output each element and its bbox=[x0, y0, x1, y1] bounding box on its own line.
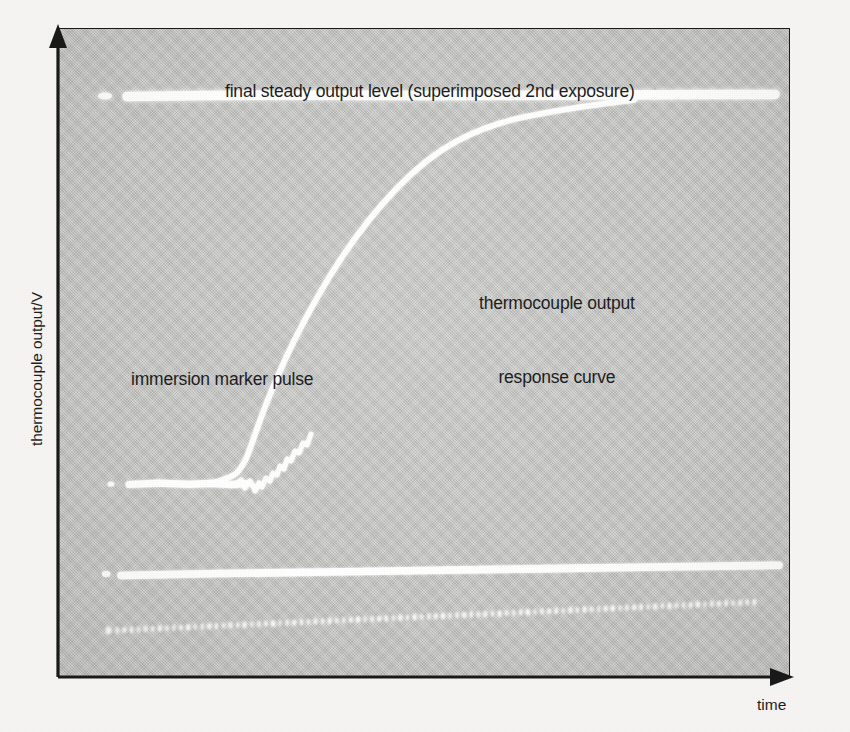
timing-pulse-dot bbox=[398, 614, 403, 621]
timing-pulse-dot bbox=[469, 611, 473, 618]
timing-pulse-dot bbox=[264, 621, 269, 627]
annotation-final-steady-level: final steady output level (superimposed … bbox=[225, 81, 635, 102]
annotation-response-curve-line2: response curve bbox=[479, 365, 635, 390]
timing-pulse-dot bbox=[164, 625, 169, 631]
timing-pulse-dot bbox=[476, 611, 481, 617]
timing-pulse-dot bbox=[327, 617, 332, 624]
timing-pulse-dot bbox=[278, 620, 282, 626]
timing-pulse-dot bbox=[300, 619, 304, 626]
oscilloscope-traces bbox=[59, 29, 790, 677]
timing-pulse-dot bbox=[682, 602, 686, 609]
timing-pulse-dot bbox=[462, 612, 467, 618]
timing-pulse-dot bbox=[695, 601, 700, 608]
timing-pulse-dot bbox=[710, 600, 715, 607]
timing-pulse-dot bbox=[519, 609, 524, 615]
timing-pulse-dot bbox=[115, 627, 120, 634]
timing-pulse-dot bbox=[313, 618, 318, 625]
timing-pulse-dot bbox=[533, 609, 537, 615]
timing-pulse-dot bbox=[589, 606, 594, 612]
plot-area: final steady output level (superimposed … bbox=[58, 28, 790, 677]
timing-pulse-dot bbox=[632, 604, 637, 610]
timing-pulse-dot bbox=[703, 601, 707, 607]
timing-pulse-dot bbox=[306, 619, 311, 625]
timing-pulse-dot bbox=[342, 617, 346, 624]
timing-pulse-dot bbox=[610, 605, 615, 612]
annotation-immersion-marker-pulse: immersion marker pulse bbox=[131, 369, 313, 390]
timing-pulse-dot bbox=[151, 626, 155, 632]
timing-pulse-dot bbox=[554, 607, 558, 614]
timing-pulse-dot bbox=[200, 623, 205, 630]
timing-pulse-dot bbox=[363, 616, 367, 622]
timing-pulse-dot bbox=[172, 624, 176, 631]
timing-pulse-dot bbox=[391, 615, 396, 621]
timing-pulse-dot bbox=[377, 616, 382, 622]
timing-pulse-dot bbox=[215, 622, 219, 629]
timing-pulse-lead-dot bbox=[105, 626, 110, 634]
timing-pulse-dot bbox=[540, 608, 545, 615]
timing-pulse-dot bbox=[576, 607, 580, 613]
timing-pulse-dot bbox=[525, 609, 530, 616]
timing-pulse-dot bbox=[221, 623, 226, 629]
annotation-response-curve-line1: thermocouple output bbox=[479, 291, 635, 316]
timing-pulse-dot bbox=[646, 604, 651, 610]
timing-pulse-dot bbox=[752, 599, 757, 606]
timing-pulse-dot bbox=[724, 600, 728, 607]
timing-pulse-dot bbox=[440, 612, 445, 619]
timing-pulse-dot bbox=[193, 624, 197, 630]
timing-pulse-dot bbox=[582, 606, 587, 613]
annotation-response-curve: thermocouple output response curve bbox=[479, 241, 635, 440]
timing-pulse-dot bbox=[136, 626, 141, 632]
timing-pulse-dot bbox=[285, 619, 290, 626]
timing-pulse-dot bbox=[143, 626, 148, 633]
timing-pulse-dot bbox=[603, 606, 608, 612]
timing-pulse-dot bbox=[349, 617, 354, 623]
timing-pulse-dot bbox=[448, 613, 452, 619]
annotation-timing-pulses: timing pulses on marked trace bbox=[355, 674, 583, 677]
timing-pulse-dot bbox=[384, 615, 388, 622]
timing-pulse-dot bbox=[568, 607, 573, 614]
timing-pulse-dot bbox=[179, 624, 184, 630]
trace-marked-baseline bbox=[102, 565, 779, 577]
timing-pulse-dot bbox=[504, 610, 509, 616]
timing-pulse-dot bbox=[618, 605, 622, 611]
timing-pulse-dot bbox=[270, 620, 275, 627]
timing-pulse-dot bbox=[639, 604, 643, 611]
timing-pulse-dot bbox=[158, 625, 163, 632]
timing-pulse-dot bbox=[455, 612, 460, 619]
timing-pulse-dot bbox=[228, 622, 233, 629]
timing-pulse-dot bbox=[186, 624, 191, 631]
timing-pulse-dot bbox=[207, 623, 212, 629]
timing-pulse-dot bbox=[674, 602, 679, 608]
x-axis-label: time bbox=[757, 696, 786, 714]
timing-pulse-dot bbox=[653, 603, 658, 610]
timing-pulse-dot bbox=[667, 602, 672, 609]
timing-pulse-dot bbox=[547, 608, 552, 614]
trace-timing-pulses bbox=[105, 599, 756, 635]
timing-pulse-dot bbox=[236, 622, 240, 628]
timing-pulse-dot bbox=[491, 611, 495, 617]
timing-pulse-dot bbox=[412, 614, 417, 621]
timing-pulse-dot bbox=[434, 613, 439, 619]
timing-pulse-dot bbox=[406, 614, 410, 620]
timing-pulse-dot bbox=[292, 619, 297, 625]
timing-pulse-dot bbox=[625, 604, 630, 611]
timing-pulse-dot bbox=[257, 621, 261, 628]
timing-pulse-dot bbox=[745, 599, 749, 605]
timing-pulse-dot bbox=[688, 602, 693, 608]
oscilloscope-trace-figure: final steady output level (superimposed … bbox=[0, 0, 850, 732]
timing-pulse-dot bbox=[661, 603, 665, 609]
timing-pulse-dot bbox=[738, 599, 743, 606]
timing-pulse-dot bbox=[512, 609, 516, 616]
timing-pulse-dot bbox=[334, 618, 339, 624]
timing-pulse-dot bbox=[731, 600, 736, 606]
timing-pulse-dot bbox=[321, 618, 325, 624]
timing-pulse-dot bbox=[122, 627, 127, 633]
timing-pulse-dot bbox=[130, 626, 134, 633]
timing-pulse-dot bbox=[716, 601, 721, 607]
timing-pulse-dot bbox=[355, 616, 360, 623]
timing-pulse-dot bbox=[242, 621, 247, 628]
y-axis-label: thermocouple output/V bbox=[28, 254, 46, 484]
timing-pulse-dot bbox=[597, 606, 601, 613]
timing-pulse-dot bbox=[249, 621, 254, 627]
timing-pulse-dot bbox=[370, 616, 375, 623]
